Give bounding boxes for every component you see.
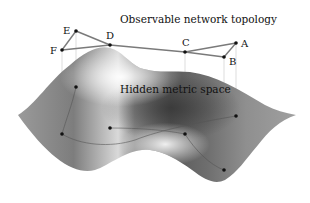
surface-node-D (108, 126, 112, 130)
node-B (222, 55, 226, 59)
surface-node-F (60, 132, 64, 136)
node-D (108, 43, 112, 47)
node-label-C: C (182, 37, 190, 48)
node-label-A: A (240, 38, 249, 49)
node-A (234, 41, 238, 45)
node-label-F: F (50, 45, 57, 56)
surface-node-B (222, 168, 226, 172)
surface-node-A (234, 114, 238, 118)
metric-surface (18, 47, 296, 182)
observable-topology-label: Observable network topology (120, 13, 277, 25)
hidden-metric-space-label: Hidden metric space (120, 83, 231, 95)
node-label-D: D (106, 30, 114, 41)
surface-node-C (183, 132, 187, 136)
node-E (74, 29, 78, 33)
node-label-B: B (229, 56, 236, 67)
node-label-E: E (63, 25, 70, 36)
node-F (60, 48, 64, 52)
node-C (183, 50, 187, 54)
network-metric-space-diagram: A B C D E F Observable network topology … (0, 0, 310, 203)
surface-node-E (74, 85, 78, 89)
